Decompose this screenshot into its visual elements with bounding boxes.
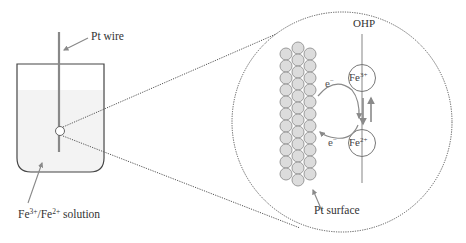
pt-atom-lattice: [280, 42, 316, 186]
pt-atom: [304, 60, 316, 72]
pt-atom: [280, 120, 292, 132]
pt-atom: [304, 144, 316, 156]
pt-atom: [280, 132, 292, 144]
pt-atom: [304, 84, 316, 96]
pt-atom: [292, 174, 304, 186]
electron-label-bottom: e−: [328, 137, 337, 148]
pt-wire-pointer-arrow: [64, 38, 88, 50]
solution-label-charge-2: 2+: [52, 207, 60, 216]
electrochemistry-diagram: [0, 0, 466, 243]
fe2-ion-charge: 2+: [360, 136, 367, 144]
electron-charge: −: [330, 77, 334, 85]
pt-atom: [292, 78, 304, 90]
pt-atom: [292, 162, 304, 174]
fe3-ion-symbol: Fe: [349, 71, 360, 83]
pt-atom: [304, 132, 316, 144]
pt-atom: [304, 120, 316, 132]
pt-atom: [292, 54, 304, 66]
zoom-circle: [232, 12, 452, 232]
pt-atom: [304, 96, 316, 108]
pt-wire-label: Pt wire: [91, 31, 124, 43]
pt-atom: [280, 168, 292, 180]
pt-atom: [292, 102, 304, 114]
pt-atom: [304, 168, 316, 180]
solution-label-fe: Fe: [18, 208, 30, 220]
pt-atom: [292, 150, 304, 162]
pt-atom: [280, 144, 292, 156]
pt-atom: [304, 156, 316, 168]
pt-atom: [292, 126, 304, 138]
beaker: [17, 64, 104, 172]
electron-charge: −: [333, 136, 337, 144]
fe2-ion-symbol: Fe: [349, 136, 360, 148]
pt-atom: [292, 114, 304, 126]
solution-label-tail: solution: [60, 208, 100, 220]
pt-atom: [292, 138, 304, 150]
pt-atom: [280, 156, 292, 168]
electron-label-top: e−: [325, 78, 334, 89]
pt-atom: [304, 72, 316, 84]
fe3-ion-label: Fe3+: [349, 72, 367, 83]
pt-atom: [292, 90, 304, 102]
pt-atom: [280, 60, 292, 72]
fe2-ion-label: Fe2+: [349, 137, 367, 148]
pt-surface-label: Pt surface: [314, 205, 360, 217]
pt-atom: [304, 108, 316, 120]
pt-atom: [280, 108, 292, 120]
pt-atom: [304, 48, 316, 60]
solution-label-sep: /Fe: [37, 208, 52, 220]
pt-atom: [292, 42, 304, 54]
fe3-ion-charge: 3+: [360, 71, 367, 79]
magnified-spot: [56, 127, 65, 136]
pt-atom: [292, 66, 304, 78]
pt-atom: [280, 84, 292, 96]
pt-atom: [280, 72, 292, 84]
solution-label: Fe3+/Fe2+ solution: [18, 208, 100, 221]
pt-atom: [280, 96, 292, 108]
pt-atom: [280, 48, 292, 60]
ohp-label: OHP: [353, 18, 375, 29]
